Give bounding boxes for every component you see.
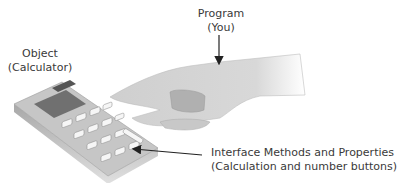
program-label-subtitle: (You) (196, 21, 246, 35)
object-label-title: Object (3, 47, 77, 61)
program-label-title: Program (196, 7, 246, 21)
program-label: Program (You) (196, 7, 246, 35)
hand-illustration (110, 54, 305, 130)
object-label-subtitle: (Calculator) (3, 61, 77, 75)
interface-label-title: Interface Methods and Properties (211, 146, 397, 160)
interface-label-subtitle: (Calculation and number buttons) (211, 160, 397, 174)
interface-label: Interface Methods and Properties (Calcul… (211, 146, 397, 174)
object-label: Object (Calculator) (3, 47, 77, 75)
